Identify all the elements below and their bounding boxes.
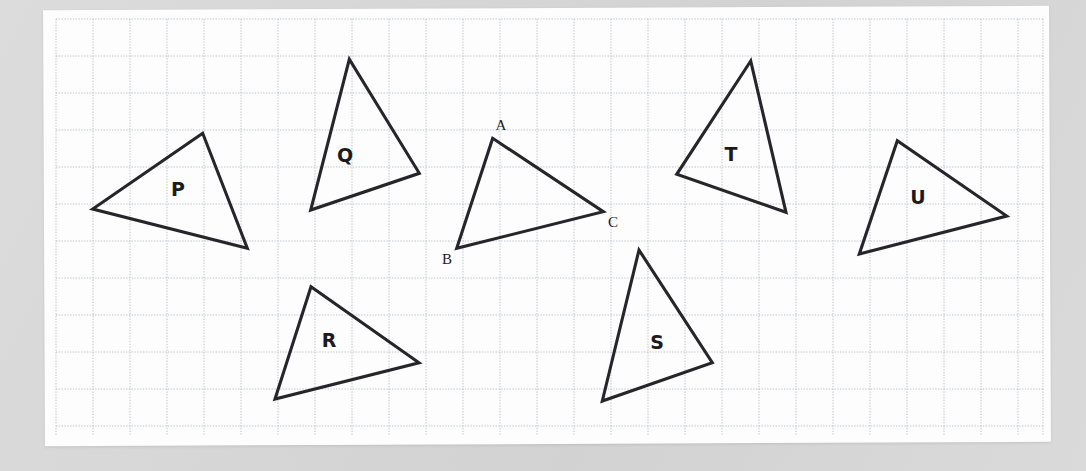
triangle-t: [677, 61, 786, 212]
triangle-p: [93, 133, 248, 248]
triangle-abc: [457, 138, 604, 248]
vertex-label-b: B: [442, 251, 452, 267]
triangle-label-s: S: [650, 331, 664, 353]
triangle-label-t: T: [725, 143, 738, 165]
grid-area: ABCPQRSTU: [56, 19, 1043, 435]
triangles-layer: ABCPQRSTU: [56, 19, 1043, 435]
triangle-label-u: U: [910, 186, 925, 208]
vertex-label-c: C: [608, 214, 618, 230]
triangle-label-r: R: [322, 329, 337, 351]
diagram-page: ABCPQRSTU: [0, 0, 1086, 471]
vertex-label-a: A: [496, 117, 507, 133]
triangle-u: [859, 141, 1006, 254]
triangle-label-p: P: [171, 178, 185, 200]
triangle-s: [602, 250, 712, 401]
triangle-label-q: Q: [337, 144, 353, 166]
triangle-q: [311, 59, 420, 210]
triangle-r: [275, 287, 419, 399]
